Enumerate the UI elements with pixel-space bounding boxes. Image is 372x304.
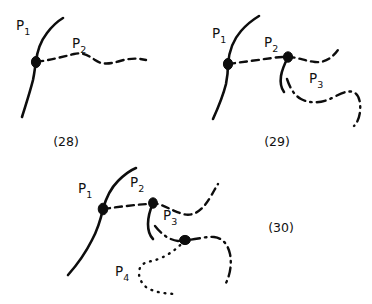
- caption-29: (29): [264, 134, 290, 149]
- label-p1-30: P1: [78, 180, 92, 200]
- panel-30: P1 P2 P3 P4 (30): [68, 168, 294, 294]
- node-p2-p3-30: [149, 198, 158, 208]
- label-p2-30: P2: [130, 174, 144, 194]
- label-p2-28: P2: [72, 35, 86, 55]
- curve-p4-dotted-30: [139, 240, 185, 294]
- caption-28: (28): [53, 134, 79, 149]
- label-p4-30: P4: [115, 263, 129, 283]
- label-p2-29: P2: [264, 34, 278, 54]
- node-p1-p2-29: [223, 58, 232, 69]
- curve-p3-dashdot-30: [155, 226, 231, 283]
- label-p3-29: P3: [309, 70, 323, 90]
- label-p1-29: P1: [212, 25, 226, 45]
- node-p1-p2-28: [31, 56, 40, 67]
- figure-container: P1 P2 (28) P1 P2 P3 (29): [0, 0, 372, 304]
- label-p1-28: P1: [16, 17, 30, 37]
- curve-p3-dashdot-29: [287, 79, 360, 126]
- panel-29: P1 P2 P3 (29): [212, 16, 360, 149]
- figure-canvas: P1 P2 (28) P1 P2 P3 (29): [0, 0, 372, 304]
- node-p2-p3-29: [283, 52, 292, 62]
- panel-28: P1 P2 (28): [16, 17, 146, 149]
- curve-p2-dashed-28: [36, 53, 146, 63]
- caption-30: (30): [268, 220, 294, 235]
- node-p1-p2-30: [98, 203, 108, 215]
- curve-p2-dashed-30: [103, 184, 218, 215]
- node-p3-p4-30: [180, 235, 191, 244]
